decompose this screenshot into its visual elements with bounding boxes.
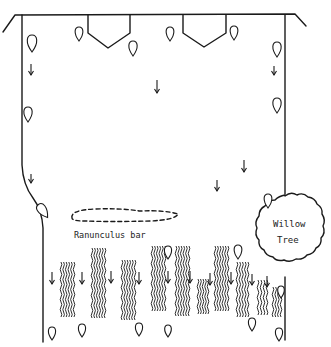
ranunculus-bar: Ranunculus bar: [72, 209, 178, 240]
leaf-icon: [230, 26, 238, 40]
flow-arrow-icon: [50, 272, 55, 284]
weed-bed-icon: [121, 260, 136, 320]
groyne: [183, 15, 226, 47]
leaf-icon: [166, 27, 174, 41]
willow-tree-label-line1: Willow: [273, 219, 306, 229]
leaf-icon: [275, 328, 282, 341]
groynes: [88, 15, 226, 48]
leaf-icon: [27, 35, 36, 52]
channel-banks: [3, 14, 306, 342]
flow-arrow-icon: [215, 180, 220, 191]
flow-arrow-icon: [250, 274, 255, 285]
flow-arrow-icon: [109, 271, 114, 283]
flow-arrow-icon: [137, 272, 142, 284]
leaf-icon: [248, 318, 255, 331]
weed-bed-icon: [214, 246, 229, 311]
left-bank: [22, 15, 43, 342]
flow-arrow-icon: [265, 276, 270, 287]
groyne: [88, 15, 130, 48]
flow-arrow-icon: [29, 174, 34, 183]
flow-arrow-icon: [29, 64, 34, 75]
river-channel-diagram: Ranunculus bar Willow Tree: [0, 0, 331, 347]
leaf-icon: [273, 98, 281, 113]
flow-arrow-icon: [229, 272, 234, 284]
weed-bed-icon: [236, 262, 249, 317]
willow-tree-label-line2: Tree: [277, 235, 299, 245]
flow-arrow-icon: [166, 271, 171, 283]
flow-arrow-icon: [272, 66, 277, 75]
weed-bed-icon: [151, 246, 166, 311]
flow-arrow-icon: [80, 272, 85, 284]
weed-bed-icon: [197, 279, 209, 314]
weed-bed-icon: [175, 246, 190, 316]
ranunculus-bar-outline: [72, 209, 178, 222]
flow-arrow-icon: [242, 160, 247, 172]
leaf-icon: [24, 107, 32, 122]
leaf-icon: [75, 27, 83, 41]
ranunculus-bar-label: Ranunculus bar: [74, 230, 146, 240]
leaf-icon: [48, 327, 55, 340]
weed-bed-icon: [60, 262, 75, 317]
leaf-icon: [234, 245, 242, 259]
weed-beds: [60, 246, 282, 320]
leaf-icon: [273, 42, 281, 57]
leaf-icon: [165, 325, 172, 337]
leaf-icon: [278, 286, 285, 298]
leaf-icon: [135, 323, 142, 336]
flow-arrow-icon: [155, 80, 160, 93]
leaf-icon: [78, 324, 85, 337]
leaf-icon: [129, 41, 137, 56]
top-bank: [3, 14, 306, 32]
weed-bed-icon: [91, 248, 106, 318]
